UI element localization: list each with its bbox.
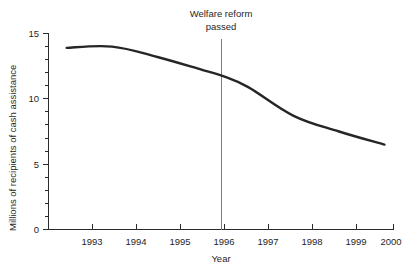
x-tick-label-2000: 2000	[380, 236, 401, 247]
y-tick-label-15: 15	[28, 28, 39, 39]
x-tick-label-1993: 1993	[81, 236, 102, 247]
chart-figure: 15 10 5 0 Millions of recipients of cash…	[0, 0, 403, 274]
welfare-reform-annotation-line2: passed	[206, 21, 237, 32]
x-tick-label-1998: 1998	[301, 236, 322, 247]
welfare-recipients-line-chart: 15 10 5 0 Millions of recipients of cash…	[0, 0, 403, 274]
chart-background	[0, 0, 403, 274]
x-axis-title: Year	[211, 253, 230, 264]
y-tick-label-5: 5	[34, 159, 39, 170]
x-tick-label-1999: 1999	[345, 236, 366, 247]
x-tick-label-1995: 1995	[169, 236, 190, 247]
welfare-reform-annotation-line1: Welfare reform	[190, 8, 253, 19]
y-tick-label-0: 0	[34, 224, 39, 235]
x-tick-label-1997: 1997	[257, 236, 278, 247]
y-axis-title: Millions of recipients of cash assistanc…	[7, 65, 18, 231]
y-tick-label-10: 10	[28, 93, 39, 104]
x-tick-label-1994: 1994	[125, 236, 146, 247]
x-tick-label-1996: 1996	[213, 236, 234, 247]
